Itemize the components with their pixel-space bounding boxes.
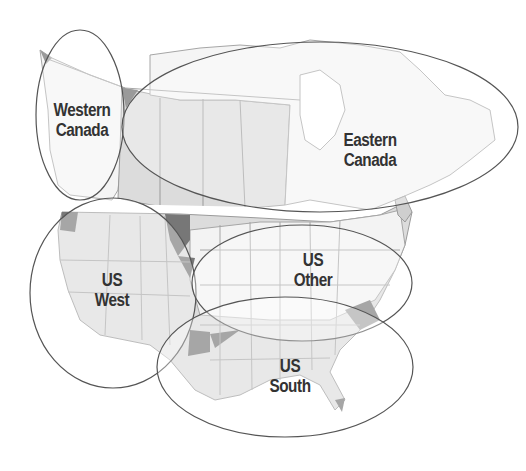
label-us-south: US South — [265, 356, 316, 396]
label-eastern-canada: Eastern Canada — [332, 130, 409, 170]
label-line: Canada — [48, 120, 116, 140]
label-line: South — [265, 376, 316, 396]
label-us-west: US West — [87, 270, 138, 310]
label-line: Canada — [332, 150, 409, 170]
label-line: US — [265, 356, 316, 376]
label-line: US — [288, 250, 339, 270]
region-map: Western Canada Eastern Canada US West US… — [0, 0, 526, 471]
label-line: US — [87, 270, 138, 290]
label-western-canada: Western Canada — [48, 100, 116, 140]
ellipse-eastern-canada[interactable] — [122, 42, 518, 212]
label-us-other: US Other — [288, 250, 339, 290]
label-line: West — [87, 290, 138, 310]
label-line: Western — [48, 100, 116, 120]
label-line: Eastern — [332, 130, 409, 150]
label-line: Other — [288, 270, 339, 290]
map-canvas — [0, 0, 526, 471]
